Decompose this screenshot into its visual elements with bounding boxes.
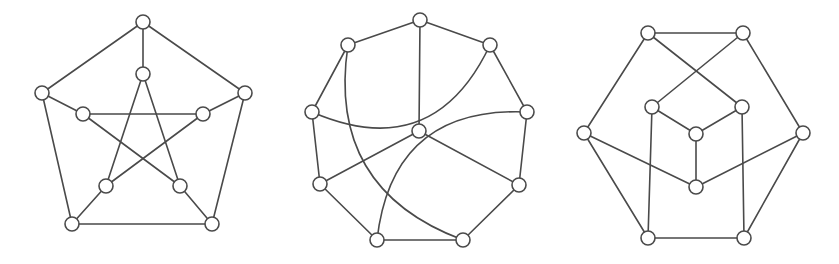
- graph-edge: [519, 112, 527, 185]
- graph-vertex: [512, 178, 526, 192]
- graph-edge: [106, 114, 203, 186]
- figure-panel: Petersen graph Nine-cycle with central h…: [0, 0, 839, 264]
- graph-vertex: [641, 231, 655, 245]
- graph-edge: [42, 22, 143, 93]
- graph-edge: [143, 22, 245, 93]
- graph-edge: [419, 131, 519, 185]
- graph-vertex: [735, 100, 749, 114]
- graph-diagram-canvas: [0, 0, 839, 264]
- graph-vertex: [313, 177, 327, 191]
- graph-edge: [42, 93, 72, 224]
- graph-arc-edge: [377, 112, 527, 240]
- graph-edge: [648, 33, 742, 107]
- graph-vertex: [370, 233, 384, 247]
- graph-edge: [696, 107, 742, 134]
- graph-vertex: [341, 38, 355, 52]
- graph-vertex: [305, 105, 319, 119]
- graph-edge: [320, 131, 419, 184]
- graph-edge: [743, 33, 803, 133]
- graph-vertex: [483, 38, 497, 52]
- graph-vertex: [796, 126, 810, 140]
- nonagon-center-graph: [305, 13, 534, 247]
- graph-edge: [584, 33, 648, 133]
- graph-vertex: [65, 217, 79, 231]
- graph-vertex: [412, 124, 426, 138]
- graph-edge: [463, 185, 519, 240]
- graph-vertex: [689, 180, 703, 194]
- graph-vertex: [737, 231, 751, 245]
- graph-vertex: [35, 86, 49, 100]
- graph-vertex: [99, 179, 113, 193]
- graph-edge: [320, 184, 377, 240]
- graph-vertex: [136, 15, 150, 29]
- graph-vertex: [736, 26, 750, 40]
- graph-vertex: [413, 13, 427, 27]
- graph-edge: [648, 107, 652, 238]
- graph-vertex: [456, 233, 470, 247]
- graph-edge: [652, 33, 743, 107]
- petersen-graph: [35, 15, 252, 231]
- graph-vertex: [577, 126, 591, 140]
- hexagon-prism-graph: [577, 26, 810, 245]
- graph-vertex: [238, 86, 252, 100]
- graph-arc-edge: [312, 45, 490, 128]
- graph-edge: [143, 74, 180, 186]
- graph-edge: [490, 45, 527, 112]
- graph-vertex: [196, 107, 210, 121]
- graph-vertex: [645, 100, 659, 114]
- graph-arc-edge: [345, 45, 463, 240]
- graph-edge: [212, 93, 245, 224]
- graph-vertex: [641, 26, 655, 40]
- graph-vertex: [205, 217, 219, 231]
- graph-vertex: [173, 179, 187, 193]
- graph-edge: [420, 20, 490, 45]
- graph-edge: [348, 20, 420, 45]
- graph-vertex: [689, 127, 703, 141]
- graph-edge: [742, 107, 744, 238]
- graph-edge: [312, 112, 320, 184]
- graph-vertex: [76, 107, 90, 121]
- graph-edge: [419, 20, 420, 131]
- graph-edge: [83, 114, 180, 186]
- graph-edge: [106, 74, 143, 186]
- graph-vertex: [520, 105, 534, 119]
- graph-vertex: [136, 67, 150, 81]
- graph-edge: [312, 45, 348, 112]
